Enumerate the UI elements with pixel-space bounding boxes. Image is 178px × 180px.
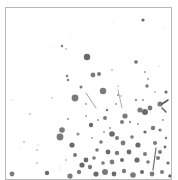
paint-drop bbox=[145, 84, 148, 87]
paint-drop bbox=[151, 126, 155, 130]
paint-drop bbox=[29, 113, 31, 115]
paint-drop bbox=[122, 113, 127, 118]
paint-drop bbox=[166, 161, 169, 164]
paint-drop bbox=[59, 167, 60, 168]
paint-drop bbox=[120, 95, 122, 97]
paint-drop bbox=[92, 156, 96, 160]
paint-drop bbox=[160, 170, 164, 174]
paint-drop bbox=[36, 149, 38, 151]
paint-drop bbox=[137, 107, 142, 112]
paint-drop bbox=[130, 135, 134, 139]
paint-drop bbox=[36, 162, 38, 164]
paint-drop bbox=[97, 119, 99, 121]
paint-drop bbox=[142, 109, 148, 115]
paint-drop bbox=[93, 171, 98, 176]
paint-drop bbox=[164, 27, 165, 28]
paint-drop bbox=[103, 116, 107, 120]
paint-drop bbox=[156, 156, 160, 160]
paint-drop bbox=[57, 134, 64, 141]
background bbox=[0, 0, 178, 180]
paint-drop bbox=[111, 69, 113, 71]
paint-drop bbox=[72, 95, 79, 102]
paint-drop bbox=[134, 157, 139, 162]
paint-drop bbox=[134, 60, 138, 64]
paint-drop bbox=[115, 103, 117, 105]
paint-drop bbox=[85, 115, 87, 117]
paint-drop bbox=[95, 148, 99, 152]
paint-drop bbox=[130, 172, 136, 178]
paint-drop bbox=[89, 123, 93, 127]
paint-drop bbox=[110, 160, 115, 165]
paint-drop bbox=[127, 150, 132, 155]
paint-drop bbox=[164, 146, 167, 149]
paint-drop bbox=[91, 73, 96, 78]
paint-drop bbox=[106, 150, 111, 155]
paint-drop bbox=[67, 118, 69, 120]
paint-drop bbox=[99, 140, 103, 144]
paint-drop bbox=[77, 170, 81, 174]
paint-drop bbox=[120, 158, 124, 162]
paint-drop bbox=[101, 161, 105, 165]
paint-drop bbox=[112, 172, 117, 177]
paint-drop bbox=[102, 169, 108, 175]
paint-drop bbox=[165, 137, 167, 139]
paint-drop bbox=[65, 48, 67, 50]
paint-drop bbox=[80, 86, 83, 89]
paint-drop bbox=[143, 130, 146, 133]
paint-drop bbox=[65, 159, 67, 161]
paint-drop bbox=[11, 99, 13, 101]
paint-drop bbox=[158, 128, 161, 131]
paint-drop bbox=[61, 45, 63, 47]
paint-drop bbox=[88, 165, 92, 169]
paint-drop bbox=[79, 162, 84, 167]
paint-drop bbox=[100, 88, 106, 94]
paint-drop bbox=[142, 99, 144, 101]
paint-drop bbox=[66, 75, 68, 77]
paint-drop bbox=[45, 171, 49, 175]
paint-splatter-artwork bbox=[0, 0, 178, 180]
paint-drop bbox=[153, 141, 157, 145]
paint-drop bbox=[84, 158, 89, 163]
paint-drop bbox=[144, 71, 146, 73]
paint-drop bbox=[51, 97, 52, 98]
paint-drop bbox=[147, 78, 149, 80]
paint-drop bbox=[140, 170, 144, 174]
paint-drop bbox=[73, 153, 77, 157]
paint-drop bbox=[69, 142, 74, 147]
paint-drop bbox=[59, 127, 65, 133]
paint-drop bbox=[85, 103, 87, 105]
paint-drop bbox=[162, 119, 164, 121]
paint-drop bbox=[141, 18, 144, 21]
paint-drop bbox=[115, 151, 119, 155]
paint-drop bbox=[84, 54, 90, 60]
paint-drop bbox=[67, 79, 69, 81]
paint-drop bbox=[76, 132, 79, 135]
paint-drop bbox=[122, 169, 126, 173]
paint-drop bbox=[20, 147, 21, 148]
paint-drop bbox=[135, 99, 137, 101]
paint-drop bbox=[91, 137, 93, 139]
paint-drop bbox=[97, 72, 101, 76]
paint-drop bbox=[129, 121, 131, 123]
paint-drop bbox=[164, 90, 167, 93]
paint-drop bbox=[135, 142, 140, 147]
paint-drop bbox=[121, 141, 126, 146]
paint-drop bbox=[143, 152, 147, 156]
paint-drop bbox=[37, 144, 39, 146]
paint-drop bbox=[69, 34, 70, 35]
paint-drop bbox=[112, 21, 113, 22]
paint-drop bbox=[54, 47, 55, 48]
paint-drop bbox=[106, 109, 108, 111]
paint-drop bbox=[158, 150, 162, 154]
paint-drop bbox=[137, 123, 139, 125]
paint-drop bbox=[10, 172, 15, 177]
paint-drop bbox=[115, 136, 119, 140]
paint-drop bbox=[67, 173, 72, 178]
paint-drop bbox=[146, 160, 150, 164]
paint-drop bbox=[109, 131, 115, 137]
paint-drop bbox=[109, 127, 111, 129]
paint-drop bbox=[117, 85, 118, 86]
paint-drop bbox=[23, 141, 25, 143]
paint-drop bbox=[154, 91, 156, 93]
paint-drop bbox=[148, 106, 153, 111]
